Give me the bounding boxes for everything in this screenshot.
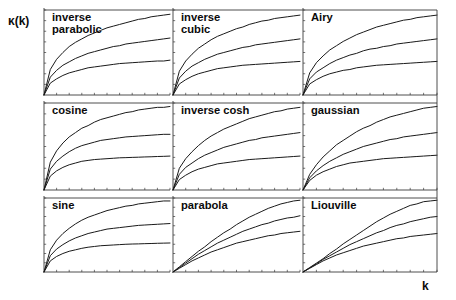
x-axis-label: k [422,279,429,293]
curve-inverse-cosh-curve-1 [173,107,300,190]
panel-title-parabola: parabola [181,199,228,211]
panel-title-liouville: Liouville [311,199,356,211]
panel-inverse-cubic: inversecubic [173,8,300,95]
curve-cosine-curve-3 [44,156,170,190]
curve-cosine-curve-1 [44,106,170,190]
panel-cosine: cosine [44,101,170,190]
curve-inverse-cosh-curve-3 [173,156,300,190]
curve-gaussian-curve-2 [303,133,437,190]
panel-title-inverse-parabolic: inverse [52,11,91,23]
y-axis-label: κ(k) [8,14,29,28]
panel-inverse-cosh: inverse cosh [173,101,300,190]
curve-airy-curve-2 [303,39,437,95]
curve-sine-curve-1 [44,201,170,272]
curve-gaussian-curve-3 [303,155,437,190]
panel-title-inverse-cubic: cubic [181,23,210,35]
panel-liouville: Liouville [303,196,437,272]
curve-sine-curve-3 [44,243,170,272]
curve-inverse-cubic-curve-2 [173,39,300,95]
panel-title-cosine: cosine [52,104,87,116]
curve-gaussian-curve-1 [303,106,437,190]
panel-airy: Airy [303,8,437,95]
curve-airy-curve-1 [303,15,437,95]
panel-title-sine: sine [52,199,74,211]
curve-sine-curve-2 [44,224,170,272]
curve-inverse-parabolic-curve-2 [44,38,170,95]
panel-title-gaussian: gaussian [311,104,360,116]
curve-liouville-curve-3 [303,234,437,272]
panel-inverse-parabolic: inverseparabolic [44,8,170,95]
panel-sine: sine [44,196,170,272]
plot-grid: inverseparabolicinversecubicAirycosinein… [0,0,456,300]
panel-title-airy: Airy [311,11,334,23]
curve-parabola-curve-3 [173,231,300,272]
curve-airy-curve-3 [303,61,437,95]
panel-title-inverse-cubic: inverse [181,11,220,23]
panel-title-inverse-cosh: inverse cosh [181,104,250,116]
figure-root: κ(k) k inverseparabolicinversecubicAiryc… [0,0,456,300]
panel-parabola: parabola [173,196,300,272]
panel-gaussian: gaussian [303,101,437,190]
panel-title-inverse-parabolic: parabolic [52,23,102,35]
